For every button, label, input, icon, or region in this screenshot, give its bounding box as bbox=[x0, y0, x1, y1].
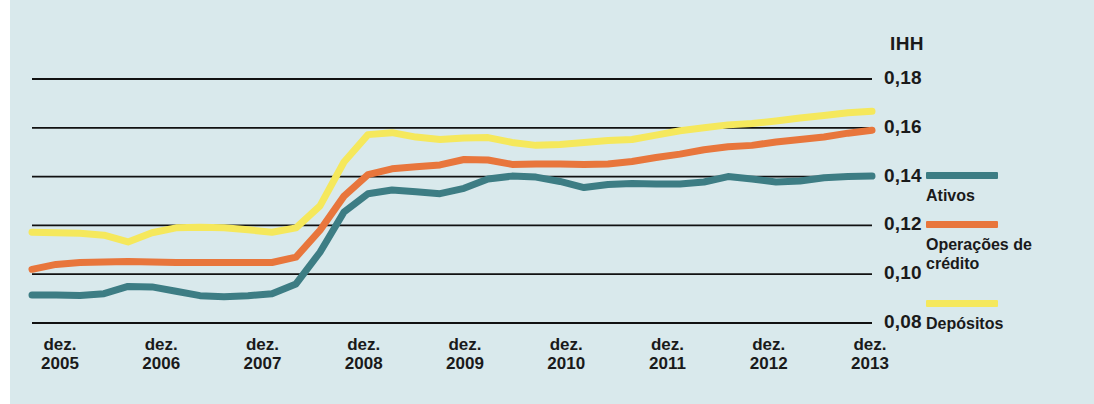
y-tick-label-0-08: 0,08 bbox=[884, 311, 922, 333]
x-tick-label-2010: dez. 2010 bbox=[523, 335, 609, 373]
x-tick-label-2005: dez. 2005 bbox=[17, 335, 103, 373]
legend-label: Depósitos bbox=[926, 314, 1003, 333]
x-tick-label-2009: dez. 2009 bbox=[422, 335, 508, 373]
legend-label: Operações de crédito bbox=[926, 235, 1032, 273]
series-lines bbox=[32, 111, 872, 296]
y-tick-label-0-14: 0,14 bbox=[884, 165, 922, 187]
x-tick-label-2013: dez. 2013 bbox=[827, 335, 913, 373]
series-line-ativos bbox=[32, 176, 872, 297]
legend-swatch-icon bbox=[926, 172, 998, 179]
y-tick-label-0-10: 0,10 bbox=[884, 262, 922, 284]
x-tick-label-2011: dez. 2011 bbox=[625, 335, 711, 373]
legend-label: Ativos bbox=[926, 186, 998, 205]
legend-item-ativos[interactable]: Ativos bbox=[926, 172, 998, 205]
legend-swatch-icon bbox=[926, 300, 998, 307]
legend-swatch-icon bbox=[926, 221, 998, 228]
x-tick-label-2012: dez. 2012 bbox=[726, 335, 812, 373]
series-line-opera-es-de-cr-dito bbox=[32, 130, 872, 269]
x-tick-label-2006: dez. 2006 bbox=[118, 335, 204, 373]
y-axis-unit-label: IHH bbox=[890, 33, 924, 55]
y-tick-label-0-18: 0,18 bbox=[884, 67, 922, 89]
chart-figure: 0,080,100,120,140,160,18 dez. 2005dez. 2… bbox=[0, 0, 1094, 404]
x-tick-label-2007: dez. 2007 bbox=[220, 335, 306, 373]
x-tick-label-2008: dez. 2008 bbox=[321, 335, 407, 373]
legend-item-opera-es-de-cr-dito[interactable]: Operações de crédito bbox=[926, 221, 1032, 273]
y-tick-label-0-16: 0,16 bbox=[884, 116, 922, 138]
y-tick-label-0-12: 0,12 bbox=[884, 213, 922, 235]
legend-item-dep-sitos[interactable]: Depósitos bbox=[926, 300, 1003, 333]
